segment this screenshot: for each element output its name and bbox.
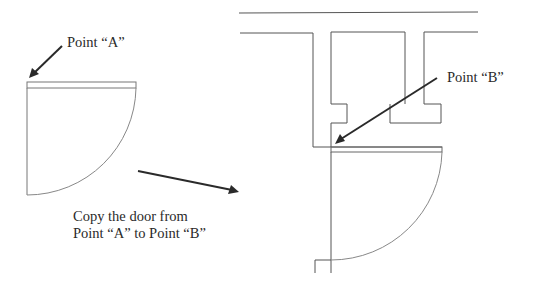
point-a-label: Point “A” (67, 34, 125, 51)
instruction-text: Copy the door from Point “A” to Point “B… (73, 208, 206, 242)
copy-direction-arrow-icon (138, 171, 239, 194)
diagram-canvas: Point “A” Point “B” Copy the door from P… (0, 0, 533, 286)
copied-door (315, 147, 442, 273)
point-b-label: Point “B” (447, 69, 504, 86)
instruction-line-1: Copy the door from (73, 208, 206, 225)
point-b-arrow-icon (335, 78, 437, 144)
point-a-arrow-icon (29, 46, 62, 78)
source-door (27, 82, 136, 195)
instruction-line-2: Point “A” to Point “B” (73, 225, 206, 242)
